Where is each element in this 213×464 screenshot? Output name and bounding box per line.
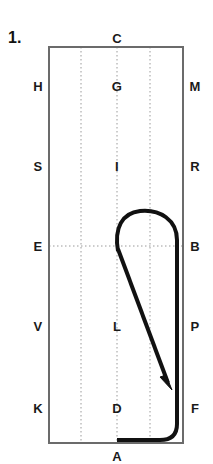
vertex-label-p: P [191, 320, 200, 333]
figure-canvas [0, 0, 213, 464]
geometry-figure: 1. CAHSEVKGILDMRBPF [0, 0, 213, 464]
vertex-label-c: C [112, 32, 122, 45]
vertex-label-a: A [112, 450, 122, 463]
vertex-label-e: E [34, 240, 43, 253]
bottom-hook-path [117, 408, 177, 440]
vertex-label-r: R [190, 160, 200, 173]
vertex-label-d: D [112, 402, 122, 415]
arrowhead [160, 375, 172, 390]
thick-path-group [117, 211, 177, 440]
vertex-label-k: K [33, 402, 43, 415]
vertex-label-f: F [191, 402, 199, 415]
vertex-label-l: L [113, 320, 121, 333]
vertex-label-m: M [189, 80, 200, 93]
arrow-shaft-path [118, 249, 168, 383]
vertex-label-h: H [33, 80, 43, 93]
vertex-label-i: I [115, 160, 119, 173]
vertex-label-g: G [112, 80, 122, 93]
vertex-label-v: V [34, 320, 43, 333]
vertex-label-s: S [34, 160, 43, 173]
vertex-label-b: B [190, 240, 200, 253]
